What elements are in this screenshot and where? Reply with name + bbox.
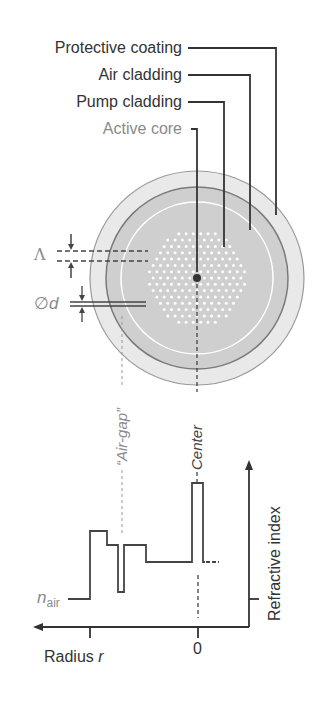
air-gap-text: “Air-gap” (113, 408, 130, 466)
air-hole (225, 264, 228, 267)
air-hole (170, 245, 173, 248)
air-hole (207, 270, 210, 273)
air-hole (217, 264, 220, 267)
air-hole (177, 232, 180, 235)
air-hole (203, 251, 206, 254)
air-hole (188, 251, 191, 254)
air-hole (181, 264, 184, 267)
air-hole (199, 245, 202, 248)
air-hole (207, 283, 210, 286)
center-text: Center (188, 425, 205, 470)
air-hole (214, 258, 217, 261)
air-hole (228, 258, 231, 261)
air-hole (243, 283, 246, 286)
x-axis-label: Radius r (44, 648, 104, 666)
air-hole (159, 302, 162, 305)
air-hole (174, 277, 177, 280)
air-hole (192, 308, 195, 311)
air-hole (228, 245, 231, 248)
air-hole (192, 296, 195, 299)
air-hole (225, 251, 228, 254)
air-hole (207, 296, 210, 299)
air-hole (221, 296, 224, 299)
air-hole (181, 239, 184, 242)
air-hole (243, 270, 246, 273)
air-hole (210, 277, 213, 280)
air-hole (199, 308, 202, 311)
air-hole (185, 245, 188, 248)
air-hole (192, 245, 195, 248)
air-hole (228, 283, 231, 286)
air-hole (210, 289, 213, 292)
air-hole (181, 289, 184, 292)
air-hole (163, 308, 166, 311)
air-hole (228, 308, 231, 311)
air-hole (232, 289, 235, 292)
air-hole (207, 258, 210, 261)
air-hole (199, 258, 202, 261)
air-hole (207, 245, 210, 248)
air-hole (214, 270, 217, 273)
air-hole (214, 308, 217, 311)
diameter-variable: d (49, 294, 58, 313)
air-hole (152, 277, 155, 280)
air-hole (203, 289, 206, 292)
air-hole (210, 239, 213, 242)
air-hole (148, 270, 151, 273)
air-hole (199, 283, 202, 286)
air-hole (174, 302, 177, 305)
air-hole (236, 296, 239, 299)
air-hole (155, 283, 158, 286)
air-hole (185, 296, 188, 299)
n-air-subscript: air (46, 596, 59, 610)
air-hole (199, 296, 202, 299)
air-hole (174, 264, 177, 267)
air-hole (174, 251, 177, 254)
air-hole (217, 302, 220, 305)
air-hole (217, 239, 220, 242)
air-hole (170, 283, 173, 286)
air-hole (177, 258, 180, 261)
air-hole (148, 283, 151, 286)
air-hole (166, 239, 169, 242)
air-hole (188, 289, 191, 292)
air-hole (155, 270, 158, 273)
label-air-gap: “Air-gap” (113, 408, 131, 466)
air-hole (221, 270, 224, 273)
air-hole (225, 302, 228, 305)
air-hole (185, 258, 188, 261)
air-hole (236, 258, 239, 261)
air-hole (166, 264, 169, 267)
refractive-index-text: Refractive index (266, 506, 283, 621)
air-hole (185, 283, 188, 286)
air-hole (159, 264, 162, 267)
air-hole (185, 232, 188, 235)
air-hole (214, 283, 217, 286)
air-hole (199, 232, 202, 235)
air-hole (203, 314, 206, 317)
label-hole-diameter: ∅d (34, 295, 58, 313)
air-hole (177, 321, 180, 324)
air-hole (228, 270, 231, 273)
label-n-air: nair (37, 589, 60, 612)
air-hole (210, 251, 213, 254)
air-hole (166, 302, 169, 305)
air-hole (225, 277, 228, 280)
air-hole (232, 264, 235, 267)
air-hole (217, 289, 220, 292)
air-hole (225, 239, 228, 242)
air-hole (221, 258, 224, 261)
air-hole (232, 302, 235, 305)
diameter-symbol: ∅ (34, 294, 49, 313)
air-hole (217, 314, 220, 317)
air-hole (203, 277, 206, 280)
air-hole (192, 270, 195, 273)
air-hole (192, 321, 195, 324)
air-hole (232, 277, 235, 280)
air-hole (221, 283, 224, 286)
air-hole (159, 277, 162, 280)
air-hole (239, 277, 242, 280)
air-hole (170, 258, 173, 261)
air-hole (163, 258, 166, 261)
air-hole (181, 314, 184, 317)
